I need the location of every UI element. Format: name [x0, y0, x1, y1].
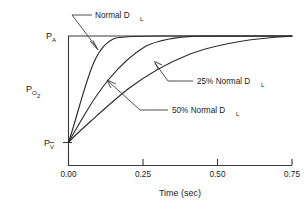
series-label-normal: Normal D L — [95, 11, 144, 22]
series-label-normal-text: Normal D — [95, 11, 130, 20]
x-axis-title: Time (sec) — [159, 188, 201, 198]
series-label-25pct-sub: L — [261, 81, 265, 88]
po2-uptake-chart: 0.00 0.25 0.50 0.75 Time (sec) P O 2 P A… — [0, 0, 304, 209]
pct25-leader — [155, 63, 193, 81]
normal-dl-arrowhead — [90, 41, 98, 51]
pct50-leader — [108, 81, 168, 110]
curve-normal-dl — [69, 36, 293, 143]
pv-label: P V — [44, 138, 55, 150]
series-label-normal-sub: L — [140, 15, 144, 22]
x-tick-label-1: 0.25 — [135, 170, 151, 179]
y-axis-title: P O 2 — [26, 84, 41, 99]
curve-25pct-normal-dl — [69, 36, 293, 142]
series-label-50pct: 50% Normal D L — [172, 106, 240, 117]
series-label-25pct-text: 25% Normal D — [197, 77, 250, 86]
pa-label-sub: A — [52, 36, 57, 43]
curve-50pct-normal-dl — [69, 36, 293, 143]
normal-dl-leader — [72, 15, 97, 48]
pv-label-sub: V — [50, 143, 55, 150]
x-tick-label-3: 0.75 — [284, 170, 300, 179]
series-label-50pct-text: 50% Normal D — [172, 106, 225, 115]
series-label-25pct: 25% Normal D L — [197, 77, 265, 88]
series-label-50pct-sub: L — [236, 110, 240, 117]
y-axis-title-sub-2: 2 — [37, 93, 41, 99]
x-tick-label-0: 0.00 — [61, 170, 77, 179]
pa-label: P A — [46, 31, 57, 43]
x-tick-label-2: 0.50 — [210, 170, 226, 179]
